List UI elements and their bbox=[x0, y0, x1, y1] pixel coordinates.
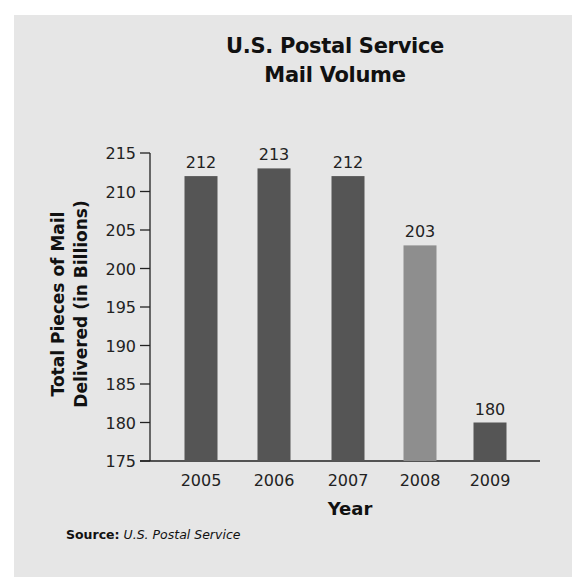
bar-2008 bbox=[404, 245, 437, 461]
bar-value-label: 212 bbox=[186, 153, 217, 172]
bar-value-label: 203 bbox=[405, 222, 436, 241]
x-tick-label: 2007 bbox=[328, 471, 369, 490]
bar-2007 bbox=[332, 176, 365, 461]
x-tick-label: 2006 bbox=[254, 471, 295, 490]
y-tick-label: 210 bbox=[105, 183, 136, 202]
bar-value-label: 212 bbox=[333, 153, 364, 172]
y-tick-label: 180 bbox=[105, 414, 136, 433]
y-tick-label: 175 bbox=[105, 452, 136, 471]
bar-2006 bbox=[258, 168, 291, 461]
bar-2005 bbox=[185, 176, 218, 461]
bar-value-label: 180 bbox=[475, 400, 506, 419]
y-tick-label: 215 bbox=[105, 144, 136, 163]
bar-chart-plot: 1751801851901952002052102152122005213200… bbox=[0, 0, 581, 585]
x-tick-label: 2005 bbox=[181, 471, 222, 490]
bar-2009 bbox=[474, 423, 507, 462]
y-tick-label: 195 bbox=[105, 298, 136, 317]
x-axis-label: Year bbox=[320, 498, 380, 519]
source-label: Source: bbox=[66, 527, 120, 542]
source-text: U.S. Postal Service bbox=[124, 527, 241, 542]
x-tick-label: 2008 bbox=[400, 471, 441, 490]
x-tick-label: 2009 bbox=[470, 471, 511, 490]
bar-value-label: 213 bbox=[259, 145, 290, 164]
y-tick-label: 190 bbox=[105, 337, 136, 356]
y-tick-label: 185 bbox=[105, 375, 136, 394]
y-tick-label: 205 bbox=[105, 221, 136, 240]
y-tick-label: 200 bbox=[105, 260, 136, 279]
source-note: Source: U.S. Postal Service bbox=[66, 527, 240, 542]
